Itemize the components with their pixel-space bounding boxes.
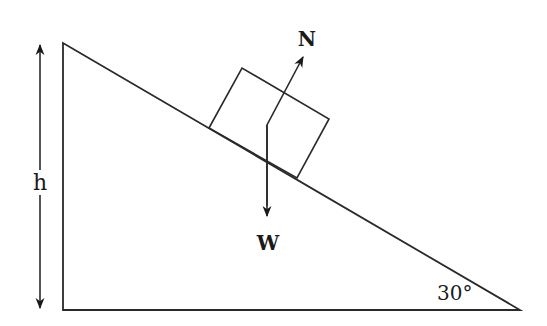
- weight-label: W: [256, 231, 280, 255]
- incline-diagram: h N W 30°: [0, 0, 547, 326]
- normal-force-arrow: [267, 57, 303, 206]
- normal-force-label: N: [298, 27, 316, 51]
- height-label: h: [33, 170, 47, 195]
- inclined-plane: [63, 43, 520, 310]
- angle-label: 30°: [437, 281, 472, 305]
- block: [209, 68, 329, 178]
